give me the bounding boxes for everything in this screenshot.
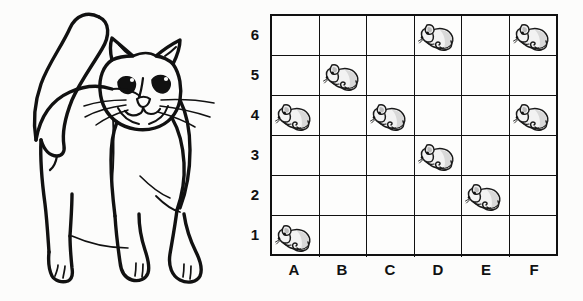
mouse-icon [465,179,505,213]
mouse-icon [370,99,410,133]
row-label-5: 5 [244,67,266,82]
grid-cell-b5[interactable] [320,56,368,95]
grid-cell-e1[interactable] [462,216,510,256]
grid-cell-e4[interactable] [462,96,510,135]
grid-cell-f5[interactable] [510,56,557,95]
grid-cell-e3[interactable] [462,136,510,175]
grid-cell-a3[interactable] [272,136,320,175]
grid-row-1 [272,216,556,256]
mouse-icon [513,99,553,133]
row-label-6: 6 [244,27,266,42]
grid-cell-d6[interactable] [415,16,463,55]
grid-cell-a6[interactable] [272,16,320,55]
column-label-a: A [270,262,318,277]
grid-cell-d1[interactable] [415,216,463,256]
grid-cell-c1[interactable] [367,216,415,256]
column-label-d: D [414,262,462,277]
grid-cell-c3[interactable] [367,136,415,175]
grid-cell-b3[interactable] [320,136,368,175]
grid-frame [270,14,558,256]
grid-row-3 [272,136,556,176]
row-label-2: 2 [244,187,266,202]
row-label-3: 3 [244,147,266,162]
column-label-c: C [366,262,414,277]
grid-row-4 [272,96,556,136]
grid-cell-f1[interactable] [510,216,557,256]
grid-cell-d5[interactable] [415,56,463,95]
grid-cell-c4[interactable] [367,96,415,135]
grid-cell-a4[interactable] [272,96,320,135]
row-label-4: 4 [244,107,266,122]
grid-cell-f6[interactable] [510,16,557,55]
grid-cell-f3[interactable] [510,136,557,175]
mouse-icon [323,59,363,93]
mouse-icon [513,19,553,53]
grid-cell-e5[interactable] [462,56,510,95]
grid-cell-b1[interactable] [320,216,368,256]
grid-cell-a2[interactable] [272,176,320,215]
coordinate-grid: 6 5 4 3 2 1 A B C D E F [240,0,583,301]
mouse-icon [275,99,315,133]
grid-cell-c5[interactable] [367,56,415,95]
grid-row-5 [272,56,556,96]
grid-cell-e6[interactable] [462,16,510,55]
grid-cell-c6[interactable] [367,16,415,55]
grid-cell-b2[interactable] [320,176,368,215]
grid-cell-a5[interactable] [272,56,320,95]
grid-row-2 [272,176,556,216]
grid-cell-c2[interactable] [367,176,415,215]
column-label-e: E [462,262,510,277]
grid-cell-d3[interactable] [415,136,463,175]
mouse-icon [275,220,315,254]
grid-cell-d4[interactable] [415,96,463,135]
cat-illustration [0,0,250,301]
grid-cell-b4[interactable] [320,96,368,135]
grid-cell-f2[interactable] [510,176,557,215]
worksheet-page: 6 5 4 3 2 1 A B C D E F [0,0,583,301]
mouse-icon [418,139,458,173]
grid-cell-b6[interactable] [320,16,368,55]
cat-line-drawing-icon [0,0,250,301]
mouse-icon [418,19,458,53]
grid-cell-e2[interactable] [462,176,510,215]
grid-cell-a1[interactable] [272,216,320,256]
grid-cell-f4[interactable] [510,96,557,135]
column-label-b: B [318,262,366,277]
row-label-1: 1 [244,227,266,242]
grid-cell-d2[interactable] [415,176,463,215]
column-label-f: F [510,262,558,277]
grid-row-6 [272,16,556,56]
